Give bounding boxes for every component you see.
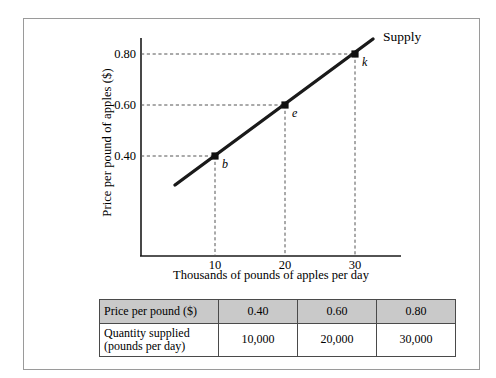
- table-cell-quantity-3: 30,000: [377, 324, 456, 357]
- data-point-label-k: k: [362, 56, 367, 68]
- curve-label-supply: Supply: [383, 30, 421, 44]
- data-point-label-b: b: [222, 158, 228, 170]
- y-tick-label-060: 0.60: [96, 99, 136, 112]
- y-tick-label-040: 0.40: [96, 150, 136, 163]
- y-axis-title: Price per pound of apples ($): [100, 28, 115, 258]
- data-point-label-e: e: [292, 107, 297, 119]
- table-row: Quantity supplied (pounds per day) 10,00…: [100, 324, 456, 357]
- supply-schedule-table-wrap: Price per pound ($) 0.40 0.60 0.80 Quant…: [99, 299, 420, 357]
- data-point-b-marker: [211, 152, 218, 159]
- plot-svg: [0, 0, 496, 300]
- table-row-header-quantity-line1: Quantity supplied: [104, 327, 214, 340]
- table-cell-price-2: 0.60: [298, 300, 377, 324]
- table-row-header-quantity: Quantity supplied (pounds per day): [100, 324, 219, 357]
- plot-area: Price per pound of apples ($) 0.80 0.60 …: [0, 0, 496, 300]
- table-row-header-price: Price per pound ($): [100, 300, 219, 324]
- supply-curve-figure: Price per pound of apples ($) 0.80 0.60 …: [0, 0, 496, 378]
- data-point-e-marker: [281, 101, 288, 108]
- supply-curve-line: [175, 39, 373, 185]
- supply-schedule-table: Price per pound ($) 0.40 0.60 0.80 Quant…: [99, 299, 456, 357]
- y-tick-label-080: 0.80: [96, 48, 136, 61]
- table-cell-quantity-1: 10,000: [219, 324, 298, 357]
- data-point-k-marker: [351, 50, 358, 57]
- table-row: Price per pound ($) 0.40 0.60 0.80: [100, 300, 456, 324]
- table-cell-quantity-2: 20,000: [298, 324, 377, 357]
- table-cell-price-1: 0.40: [219, 300, 298, 324]
- x-axis-title: Thousands of pounds of apples per day: [141, 268, 401, 283]
- table-cell-price-3: 0.80: [377, 300, 456, 324]
- table-row-header-quantity-line2: (pounds per day): [104, 340, 214, 353]
